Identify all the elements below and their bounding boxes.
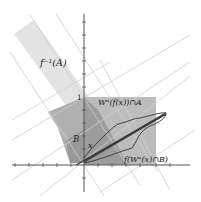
diagram-canvas: f⁻¹(A) Wᵘ(f(x))∩A f(Wᵘ(x)∩B) B x 1	[0, 0, 201, 202]
label-image-unstable: f(Wᵘ(x)∩B)	[123, 155, 168, 164]
label-preimage: f⁻¹(A)	[39, 57, 67, 68]
label-unstable-intersection: Wᵘ(f(x))∩A	[98, 98, 142, 107]
label-region-b: B	[72, 134, 79, 144]
label-point-x: x	[88, 141, 93, 150]
label-tick-one: 1	[77, 93, 82, 102]
